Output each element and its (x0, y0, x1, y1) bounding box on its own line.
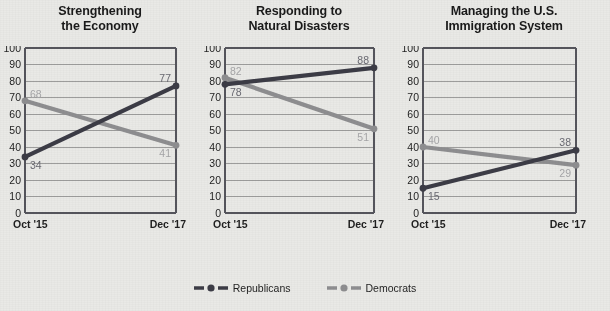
y-axis-tick-label: 100 (3, 46, 21, 54)
y-axis-tick-label: 40 (209, 141, 221, 153)
data-point-republicans (573, 147, 580, 154)
y-axis-tick-label: 0 (413, 207, 419, 219)
panel-responding-to-natural-disasters: Responding to Natural Disasters 01020304… (200, 0, 398, 275)
y-axis-tick-label: 0 (15, 207, 21, 219)
data-point-republicans (22, 154, 29, 161)
y-axis-tick-label: 80 (209, 75, 221, 87)
data-point-republicans (222, 81, 229, 88)
y-axis-tick-label: 30 (407, 157, 419, 169)
series-line-republicans (225, 68, 374, 85)
x-axis-tick-label-left: Oct '15 (13, 218, 48, 230)
data-point-democrats (22, 97, 29, 104)
y-axis-tick-label: 60 (407, 108, 419, 120)
x-axis-tick-label-left: Oct '15 (411, 218, 446, 230)
y-axis-tick-label: 60 (9, 108, 21, 120)
x-axis-tick-label-left: Oct '15 (213, 218, 248, 230)
line-chart-svg: 0102030405060708090100Oct '15Dec '174029… (398, 46, 610, 258)
panel-title-line1: Strengthening (58, 4, 141, 18)
series-line-democrats (225, 78, 374, 129)
legend-swatch-democrats (327, 283, 361, 293)
data-label-left-democrats: 68 (30, 88, 42, 100)
data-label-right-democrats: 41 (159, 147, 171, 159)
panel-title: Managing the U.S. Immigration System (398, 4, 610, 34)
data-label-left-democrats: 40 (428, 134, 440, 146)
line-chart-svg: 0102030405060708090100Oct '15Dec '176841… (0, 46, 200, 258)
y-axis-tick-label: 90 (9, 58, 21, 70)
panel-strengthening-the-economy: Strengthening the Economy 01020304050607… (0, 0, 200, 275)
chart-legend: Republicans Democrats (0, 282, 610, 294)
data-point-democrats (420, 144, 427, 151)
y-axis-tick-label: 90 (407, 58, 419, 70)
y-axis-tick-label: 30 (9, 157, 21, 169)
panel-title-line1: Responding to (256, 4, 342, 18)
data-label-right-republicans: 88 (357, 54, 369, 66)
y-axis-tick-label: 10 (209, 190, 221, 202)
data-label-right-democrats: 29 (559, 167, 571, 179)
legend-label-republicans: Republicans (233, 282, 291, 294)
panel-title-line1: Managing the U.S. (451, 4, 558, 18)
y-axis-tick-label: 40 (9, 141, 21, 153)
data-label-left-democrats: 82 (230, 65, 242, 77)
panel-title-line2: Immigration System (398, 19, 610, 34)
panel-row: Strengthening the Economy 01020304050607… (0, 0, 610, 275)
data-point-republicans (420, 185, 427, 192)
y-axis-tick-label: 70 (9, 91, 21, 103)
legend-item-democrats: Democrats (327, 282, 417, 294)
panel-title: Strengthening the Economy (0, 4, 200, 34)
series-line-republicans (25, 86, 176, 157)
data-point-democrats (371, 125, 378, 132)
panel-managing-the-us-immigration-system: Managing the U.S. Immigration System 010… (398, 0, 610, 275)
y-axis-tick-label: 10 (407, 190, 419, 202)
chart-figure: Strengthening the Economy 01020304050607… (0, 0, 610, 311)
y-axis-tick-label: 80 (407, 75, 419, 87)
x-axis-tick-label-right: Dec '17 (550, 218, 587, 230)
y-axis-tick-label: 20 (9, 174, 21, 186)
data-point-republicans (371, 64, 378, 71)
y-axis-tick-label: 90 (209, 58, 221, 70)
plot-area: 0102030405060708090100Oct '15Dec '178251… (200, 46, 398, 258)
y-axis-tick-label: 40 (407, 141, 419, 153)
data-point-republicans (173, 83, 180, 90)
x-axis-tick-label-right: Dec '17 (150, 218, 187, 230)
line-chart-svg: 0102030405060708090100Oct '15Dec '178251… (200, 46, 398, 258)
y-axis-tick-label: 20 (407, 174, 419, 186)
data-label-left-republicans: 34 (30, 159, 42, 171)
panel-title-line2: Natural Disasters (200, 19, 398, 34)
data-label-left-republicans: 78 (230, 86, 242, 98)
y-axis-tick-label: 50 (209, 124, 221, 136)
y-axis-tick-label: 20 (209, 174, 221, 186)
panel-title-line2: the Economy (0, 19, 200, 34)
y-axis-tick-label: 50 (407, 124, 419, 136)
y-axis-tick-label: 60 (209, 108, 221, 120)
plot-area: 0102030405060708090100Oct '15Dec '176841… (0, 46, 200, 258)
data-point-democrats (222, 74, 229, 81)
plot-area: 0102030405060708090100Oct '15Dec '174029… (398, 46, 610, 258)
data-label-right-republicans: 77 (159, 72, 171, 84)
y-axis-tick-label: 0 (215, 207, 221, 219)
y-axis-tick-label: 30 (209, 157, 221, 169)
y-axis-tick-label: 70 (407, 91, 419, 103)
y-axis-tick-label: 70 (209, 91, 221, 103)
data-point-democrats (173, 142, 180, 149)
y-axis-tick-label: 10 (9, 190, 21, 202)
panel-title: Responding to Natural Disasters (200, 4, 398, 34)
legend-item-republicans: Republicans (194, 282, 291, 294)
y-axis-tick-label: 50 (9, 124, 21, 136)
legend-label-democrats: Democrats (366, 282, 417, 294)
data-label-right-republicans: 38 (559, 136, 571, 148)
data-label-left-republicans: 15 (428, 190, 440, 202)
legend-swatch-republicans (194, 283, 228, 293)
y-axis-tick-label: 80 (9, 75, 21, 87)
y-axis-tick-label: 100 (401, 46, 419, 54)
data-label-right-democrats: 51 (357, 131, 369, 143)
data-point-democrats (573, 162, 580, 169)
y-axis-tick-label: 100 (203, 46, 221, 54)
x-axis-tick-label-right: Dec '17 (348, 218, 385, 230)
